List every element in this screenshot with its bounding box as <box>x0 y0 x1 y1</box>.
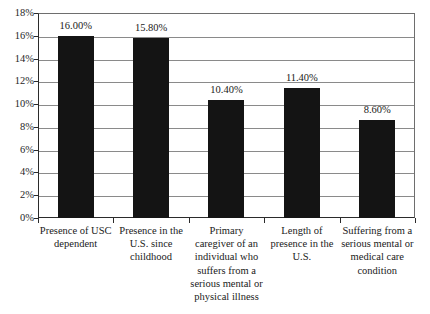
x-axis-label-line: suffers from a <box>187 264 266 277</box>
x-axis-tick-mark <box>113 218 114 223</box>
x-axis-label-line: U.S. since <box>113 237 188 250</box>
y-axis-tick-label: 10% <box>0 99 34 110</box>
gridline <box>39 82 414 83</box>
y-axis-tick-label: 2% <box>0 190 34 201</box>
x-axis-label-line: medical care <box>338 250 417 263</box>
plot-area <box>38 13 415 218</box>
y-axis-tick-label: 14% <box>0 54 34 65</box>
x-axis-category-label: Suffering from a serious mental or medic… <box>338 224 417 277</box>
gridline <box>39 151 414 152</box>
x-axis-category-label: Length of presence in the U.S. <box>264 224 339 264</box>
x-axis-label-line: individual who <box>187 250 266 263</box>
x-axis-label-line: Suffering from a <box>338 224 417 237</box>
x-axis-label-line: childhood <box>113 250 188 263</box>
y-axis-tick-label: 12% <box>0 76 34 87</box>
x-axis-tick-mark <box>415 218 416 223</box>
x-axis-label-line: dependent <box>38 237 113 250</box>
bar-chart: 18% 16% 14% 12% 10% 8% 6% 4% 2% 0% <box>0 0 430 314</box>
x-axis-label-line: Length of <box>264 224 339 237</box>
x-axis-label-line: serious mental or <box>338 237 417 250</box>
gridline <box>39 60 414 61</box>
x-axis-tick-mark <box>189 218 190 223</box>
x-axis-category-label: Presence in the U.S. since childhood <box>113 224 188 264</box>
x-axis-category-label: Primary caregiver of an individual who s… <box>187 224 266 303</box>
x-axis-category-label: Presence of USC dependent <box>38 224 113 250</box>
y-axis-tick-label: 4% <box>0 167 34 178</box>
y-axis-tick-label: 16% <box>0 31 34 42</box>
x-axis-label-line: serious mental or <box>187 277 266 290</box>
x-axis-tick-mark <box>340 218 341 223</box>
x-axis-tick-mark <box>264 218 265 223</box>
gridline <box>39 105 414 106</box>
gridline <box>39 173 414 174</box>
y-axis: 18% 16% 14% 12% 10% 8% 6% 4% 2% 0% <box>0 13 34 218</box>
x-axis-label-line: Presence in the <box>113 224 188 237</box>
y-axis-tick-label: 6% <box>0 145 34 156</box>
y-axis-tick-label: 0% <box>0 213 34 224</box>
x-axis-labels: Presence of USC dependent Presence in th… <box>38 224 415 312</box>
gridline <box>39 37 414 38</box>
x-axis-label-line: Primary <box>187 224 266 237</box>
gridline <box>39 196 414 197</box>
gridline <box>39 128 414 129</box>
y-axis-tick-label: 18% <box>0 8 34 19</box>
x-axis-label-line: caregiver of an <box>187 237 266 250</box>
x-axis-label-line: U.S. <box>264 250 339 263</box>
x-axis-label-line: physical illness <box>187 290 266 303</box>
y-axis-tick-label: 8% <box>0 122 34 133</box>
x-axis-label-line: Presence of USC <box>38 224 113 237</box>
x-axis-label-line: condition <box>338 264 417 277</box>
x-axis-tick-mark <box>38 218 39 223</box>
x-axis-label-line: presence in the <box>264 237 339 250</box>
